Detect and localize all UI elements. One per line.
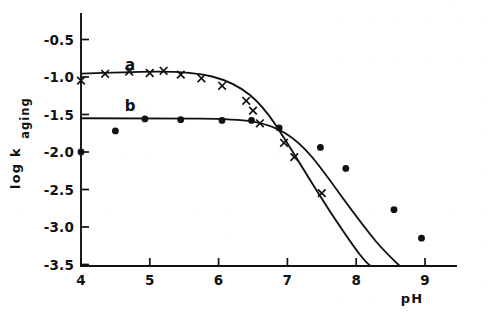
aging-rate-vs-ph-chart: -0.5 -1.0 -1.5 -2.0 -2.5 -3.0 -3.5 4 5 6… bbox=[0, 0, 487, 316]
data-point-marker bbox=[177, 116, 184, 123]
data-point-marker bbox=[342, 165, 349, 172]
x-tick-label: 5 bbox=[145, 272, 155, 288]
data-point-marker bbox=[317, 144, 324, 151]
data-point-marker bbox=[391, 206, 398, 213]
y-tick-label: -1.5 bbox=[44, 107, 74, 123]
data-point-marker bbox=[146, 69, 154, 77]
data-point-marker bbox=[112, 127, 119, 134]
data-point-marker bbox=[418, 235, 425, 242]
y-axis-title: log k aging bbox=[8, 97, 32, 189]
x-tick-label: 7 bbox=[283, 272, 293, 288]
x-axis-tick-labels: 4 5 6 7 8 9 bbox=[76, 272, 430, 288]
data-point-marker bbox=[248, 117, 255, 124]
x-tick-label: 8 bbox=[351, 272, 361, 288]
data-point-marker bbox=[249, 107, 257, 115]
y-tick-label: -0.5 bbox=[44, 32, 74, 48]
curve-b-markers bbox=[78, 116, 425, 242]
x-tick-label: 4 bbox=[76, 272, 86, 288]
curve-a-label: a bbox=[125, 56, 135, 74]
data-point-marker bbox=[219, 117, 226, 124]
y-axis-title-subscript: aging bbox=[18, 97, 32, 138]
data-point-marker bbox=[198, 75, 206, 83]
figure-container: -0.5 -1.0 -1.5 -2.0 -2.5 -3.0 -3.5 4 5 6… bbox=[0, 0, 487, 316]
data-point-marker bbox=[242, 97, 250, 105]
y-tick-label: -1.0 bbox=[44, 69, 74, 85]
y-tick-label: -2.0 bbox=[44, 144, 74, 160]
y-axis-tick-labels: -0.5 -1.0 -1.5 -2.0 -2.5 -3.0 -3.5 bbox=[44, 32, 74, 273]
y-tick-label: -3.5 bbox=[44, 257, 74, 273]
data-point-marker bbox=[101, 70, 109, 78]
x-tick-label: 6 bbox=[214, 272, 224, 288]
x-axis-ticks bbox=[81, 258, 425, 266]
curve-annotations: a b bbox=[125, 56, 136, 115]
x-axis-title-text: pH bbox=[401, 291, 424, 306]
data-point-marker bbox=[218, 82, 226, 90]
data-point-marker bbox=[78, 149, 85, 156]
data-point-marker bbox=[142, 116, 149, 123]
data-point-marker bbox=[276, 125, 283, 132]
axis-lines bbox=[81, 14, 456, 266]
x-tick-label: 9 bbox=[420, 272, 430, 288]
x-axis-title: pH bbox=[401, 291, 424, 306]
y-tick-label: -3.0 bbox=[44, 219, 74, 235]
y-tick-label: -2.5 bbox=[44, 182, 74, 198]
y-axis-title-main: log k bbox=[8, 147, 23, 189]
curve-b-label: b bbox=[125, 97, 136, 115]
